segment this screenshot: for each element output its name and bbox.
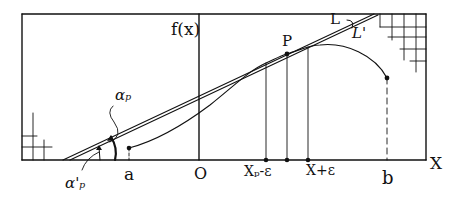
x-plus-epsilon-label: X+ε: [306, 163, 335, 177]
angle-alpha-p-prime-label: α'ₚ: [65, 176, 85, 191]
grid-bottom-left: [22, 113, 52, 160]
point-a-label: a: [124, 166, 134, 183]
line-L-label: L: [330, 12, 340, 27]
origin-label: O: [194, 166, 207, 182]
dot-P-foot: [285, 158, 290, 163]
grid-top-right: [380, 14, 426, 72]
alpha-p-prime-leader: [82, 152, 99, 170]
point-b-end: [385, 76, 390, 81]
point-P-label: P: [282, 34, 292, 49]
line-L-prime-label: L': [352, 26, 366, 41]
point-P: [285, 52, 290, 57]
x-minus-epsilon-label: Xₚ-ε: [244, 164, 272, 178]
point-a-start: [127, 146, 132, 151]
x-axis-label: X: [430, 155, 442, 172]
function-curve: [129, 45, 387, 148]
angle-alpha-p-label: αₚ: [115, 88, 131, 103]
dot-x-minus: [264, 158, 269, 163]
y-axis-label: f(x): [171, 21, 200, 38]
alpha-p-arrowhead: [107, 135, 114, 141]
point-b-label: b: [382, 169, 394, 187]
